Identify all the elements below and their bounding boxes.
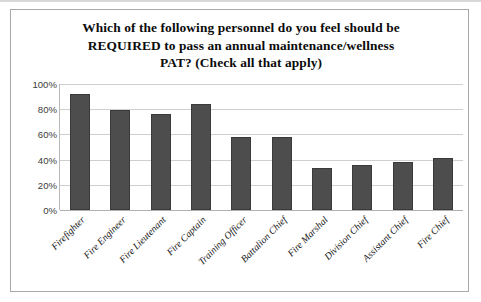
bar-slot xyxy=(60,84,100,210)
bar-slot xyxy=(141,84,181,210)
x-tick-label: Firefighter xyxy=(49,214,87,252)
bar[interactable] xyxy=(272,137,292,210)
bar[interactable] xyxy=(393,162,413,210)
bar[interactable] xyxy=(110,110,130,210)
bar-slot xyxy=(100,84,140,210)
bar-slot xyxy=(342,84,382,210)
bar-slot xyxy=(261,84,301,210)
bar[interactable] xyxy=(151,114,171,210)
y-tick-label: 80% xyxy=(13,104,57,115)
bar[interactable] xyxy=(312,168,332,210)
x-axis-category-labels: FirefighterFire EngineerFire LieutenantF… xyxy=(59,210,463,292)
y-tick-label: 40% xyxy=(13,154,57,165)
bar-slot xyxy=(423,84,463,210)
y-tick-label: 20% xyxy=(13,179,57,190)
bar-slot xyxy=(382,84,422,210)
plot-area xyxy=(59,84,463,210)
chart-frame: Which of the following personnel do you … xyxy=(10,9,469,292)
y-axis: 100%80%60%40%20%0% xyxy=(13,84,57,210)
bar-slot xyxy=(181,84,221,210)
bar[interactable] xyxy=(352,165,372,210)
x-tick-slot: Assistant Chief xyxy=(382,210,422,292)
bar-slot xyxy=(302,84,342,210)
bar-slot xyxy=(221,84,261,210)
bar[interactable] xyxy=(231,137,251,210)
y-tick-label: 60% xyxy=(13,129,57,140)
bar[interactable] xyxy=(433,158,453,210)
page-top-rule xyxy=(0,0,481,2)
bar[interactable] xyxy=(191,104,211,210)
bar-series xyxy=(60,84,463,210)
y-tick-label: 100% xyxy=(13,79,57,90)
y-tick-label: 0% xyxy=(13,205,57,216)
x-tick-slot: Fire Chief xyxy=(423,210,463,292)
bar[interactable] xyxy=(70,94,90,210)
plot-wrapper: 100%80%60%40%20%0% FirefighterFire Engin… xyxy=(11,10,470,293)
